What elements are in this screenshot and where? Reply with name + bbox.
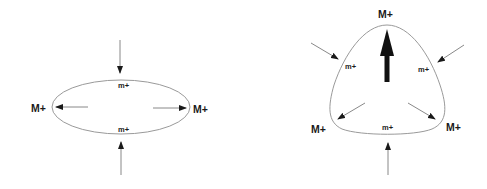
label-major-right: M+ <box>193 103 208 115</box>
arrow-expand-bottom-left-icon <box>338 103 365 119</box>
label-minor-right: m+ <box>418 65 430 74</box>
label-minor-bottom: m+ <box>118 125 130 134</box>
arrow-compress-top-right-icon <box>438 45 464 62</box>
diagram-canvas: M+ M+ m+ m+ M+ M+ M+ m+ m+ m+ <box>0 0 487 189</box>
left-panel-ellipse-diagram: M+ M+ m+ m+ <box>31 40 208 175</box>
thick-up-arrow-icon <box>380 29 394 82</box>
arrow-compress-top-left-icon <box>311 43 338 59</box>
right-panel-triangle-diagram: M+ M+ M+ m+ m+ m+ <box>311 8 464 175</box>
label-minor-left: m+ <box>345 62 357 71</box>
label-major-bottom-right: M+ <box>446 121 461 133</box>
label-major-left: M+ <box>31 102 46 114</box>
label-major-bottom-left: M+ <box>311 123 326 135</box>
arrow-expand-bottom-right-icon <box>408 103 435 119</box>
label-minor-bottom: m+ <box>382 123 394 132</box>
label-minor-top: m+ <box>118 81 130 90</box>
label-major-top: M+ <box>378 8 393 20</box>
